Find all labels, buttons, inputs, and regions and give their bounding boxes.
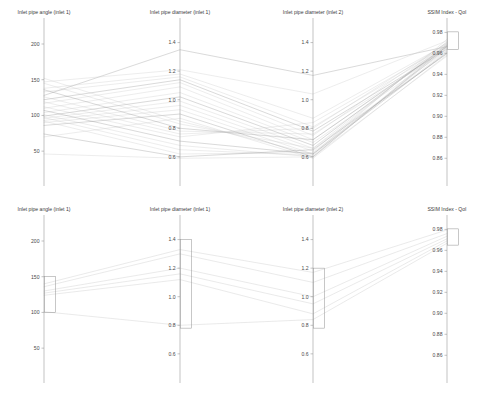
axis-tick-label: 200	[31, 41, 40, 47]
axis-title: Inlet pipe angle (inlet 1)	[18, 9, 71, 15]
axis-tick-label: 0.8	[301, 322, 308, 328]
data-polyline[interactable]	[44, 47, 447, 127]
parallel-coordinates-panel-bottom[interactable]: 200150100501.41.21.00.80.61.41.21.00.80.…	[0, 197, 484, 394]
axis-brush-selection[interactable]	[314, 268, 325, 328]
axis-tick-label: 1.0	[168, 294, 175, 300]
axis-tick-label: 200	[31, 238, 40, 244]
axis-tick-label: 1.2	[301, 265, 308, 271]
panel-bottom-titles: Inlet pipe angle (inlet 1)Inlet pipe dia…	[18, 206, 467, 212]
data-polyline[interactable]	[44, 239, 447, 304]
data-polyline[interactable]	[44, 44, 447, 157]
panel-top-axes: 200150100501.41.21.00.80.61.41.21.00.80.…	[31, 18, 447, 186]
panel-bottom-lines	[44, 230, 447, 325]
axis-tick-label: 0.86	[433, 352, 443, 358]
axis-brush-selection[interactable]	[448, 229, 459, 245]
panel-bottom-axes: 200150100501.41.21.00.80.61.41.21.00.80.…	[31, 215, 447, 383]
axis-tick-label: 1.4	[301, 236, 308, 242]
data-polyline[interactable]	[44, 236, 447, 297]
data-polyline[interactable]	[44, 234, 447, 287]
parallel-coordinates-panel-top[interactable]: 200150100501.41.21.00.80.61.41.21.00.80.…	[0, 0, 484, 197]
data-polyline[interactable]	[44, 51, 447, 154]
axis-title: Inlet pipe diameter (inlet 2)	[283, 206, 344, 212]
axis-tick-label: 0.86	[433, 155, 443, 161]
axis-tick-label: 0.92	[433, 92, 443, 98]
axis-title: Inlet pipe diameter (inlet 2)	[283, 9, 344, 15]
axis-tick-label: 1.4	[168, 236, 175, 242]
axis-tick-label: 0.88	[433, 331, 443, 337]
axis-tick-label: 0.6	[168, 351, 175, 357]
axis-tick-label: 0.8	[168, 322, 175, 328]
panel-top-titles: Inlet pipe angle (inlet 1)Inlet pipe dia…	[18, 9, 467, 15]
axis-tick-label: 150	[31, 274, 40, 280]
axis-title: Inlet pipe angle (inlet 1)	[18, 206, 71, 212]
axis-tick-label: 0.98	[433, 29, 443, 35]
data-polyline[interactable]	[44, 56, 447, 158]
axis-tick-label: 50	[34, 148, 40, 154]
axis-tick-label: 150	[31, 77, 40, 83]
data-polyline[interactable]	[44, 44, 447, 118]
axis-tick-label: 100	[31, 309, 40, 315]
axis-tick-label: 1.2	[168, 265, 175, 271]
data-polyline[interactable]	[44, 230, 447, 284]
panel-top-brushes[interactable]	[448, 32, 459, 50]
axis-title: SSIM Index - QoI	[427, 206, 466, 212]
axis-title: SSIM Index - QoI	[427, 9, 466, 15]
axis-tick-label: 0.94	[433, 268, 443, 274]
axis-tick-label: 1.4	[301, 39, 308, 45]
panel-top-lines	[44, 39, 447, 158]
axis-tick-label: 0.88	[433, 134, 443, 140]
axis-tick-label: 0.6	[301, 154, 308, 160]
axis-tick-label: 0.90	[433, 113, 443, 119]
axis-title: Inlet pipe diameter (inlet 1)	[150, 206, 211, 212]
panel-bottom-brushes[interactable]	[45, 229, 459, 328]
axis-tick-label: 100	[31, 112, 40, 118]
axis-tick-label: 0.92	[433, 289, 443, 295]
axis-tick-label: 0.90	[433, 310, 443, 316]
axis-tick-label: 1.0	[301, 97, 308, 103]
data-polyline[interactable]	[44, 47, 447, 140]
data-polyline[interactable]	[44, 52, 447, 154]
panel-top-canvas: 200150100501.41.21.00.80.61.41.21.00.80.…	[0, 0, 484, 197]
panel-bottom-canvas: 200150100501.41.21.00.80.61.41.21.00.80.…	[0, 197, 484, 394]
data-polyline[interactable]	[44, 241, 447, 314]
axis-brush-selection[interactable]	[181, 240, 192, 329]
axis-tick-label: 1.2	[168, 68, 175, 74]
axis-title: Inlet pipe diameter (inlet 1)	[150, 9, 211, 15]
axis-tick-label: 1.2	[301, 68, 308, 74]
axis-tick-label: 0.8	[301, 125, 308, 131]
axis-tick-label: 1.0	[168, 97, 175, 103]
data-polyline[interactable]	[44, 55, 447, 158]
axis-tick-label: 0.94	[433, 71, 443, 77]
data-polyline[interactable]	[44, 48, 447, 140]
axis-tick-label: 0.98	[433, 226, 443, 232]
axis-tick-label: 50	[34, 345, 40, 351]
axis-tick-label: 0.8	[168, 125, 175, 131]
axis-tick-label: 0.96	[433, 247, 443, 253]
axis-tick-label: 0.6	[168, 154, 175, 160]
data-polyline[interactable]	[44, 39, 447, 154]
axis-tick-label: 1.0	[301, 294, 308, 300]
axis-tick-label: 0.6	[301, 351, 308, 357]
axis-brush-selection[interactable]	[448, 32, 459, 50]
axis-tick-label: 1.4	[168, 39, 175, 45]
axis-tick-label: 0.96	[433, 50, 443, 56]
